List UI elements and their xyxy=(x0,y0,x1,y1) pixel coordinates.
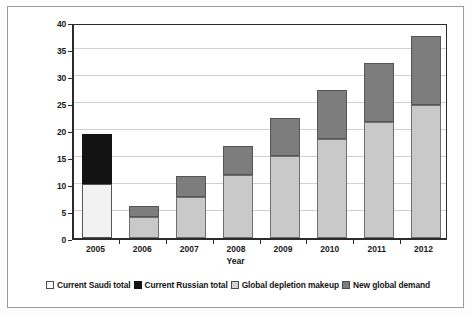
bar-segment[interactable] xyxy=(176,197,206,238)
y-tick-label: 35 xyxy=(40,46,66,56)
bar-segment[interactable] xyxy=(270,118,300,156)
dark-gray-square-swatch xyxy=(342,281,350,289)
y-tick-label: 0 xyxy=(40,235,66,245)
legend-item[interactable]: Current Saudi total xyxy=(46,280,130,290)
bar-segment[interactable] xyxy=(411,36,441,106)
legend-label: Current Saudi total xyxy=(57,280,130,290)
bar-segment[interactable] xyxy=(317,139,347,238)
legend-item[interactable]: Global depletion makeup xyxy=(231,280,339,290)
bar-segment[interactable] xyxy=(270,156,300,238)
bar-segment[interactable] xyxy=(223,175,253,238)
legend-label: Global depletion makeup xyxy=(242,280,339,290)
y-tick-label: 40 xyxy=(40,19,66,29)
y-tick-label: 5 xyxy=(40,208,66,218)
bar-segment[interactable] xyxy=(411,105,441,238)
legend-item[interactable]: New global demand xyxy=(342,280,430,290)
chart-legend: Current Saudi totalCurrent Russian total… xyxy=(46,278,430,292)
y-tick-mark xyxy=(68,240,72,241)
legend-label: New global demand xyxy=(353,280,430,290)
gridline xyxy=(74,48,446,49)
plot-area xyxy=(72,24,447,240)
bar-segment[interactable] xyxy=(129,217,159,238)
bar-segment[interactable] xyxy=(223,146,253,176)
legend-item[interactable]: Current Russian total xyxy=(134,280,228,290)
x-tick-label: 2012 xyxy=(397,244,451,254)
y-tick-label: 15 xyxy=(40,154,66,164)
bar-segment[interactable] xyxy=(317,90,347,139)
y-tick-label: 10 xyxy=(40,181,66,191)
bar-segment[interactable] xyxy=(129,206,159,218)
bar-segment[interactable] xyxy=(82,134,112,184)
chart-figure: Millions of barrels per day (Mb/d) requi… xyxy=(0,0,471,315)
legend-label: Current Russian total xyxy=(145,280,228,290)
black-square-swatch xyxy=(134,281,142,289)
y-tick-label: 30 xyxy=(40,73,66,83)
light-gray-square-swatch xyxy=(231,281,239,289)
x-axis-title: Year xyxy=(0,256,471,266)
bar-segment[interactable] xyxy=(364,63,394,122)
bar-segment[interactable] xyxy=(82,184,112,238)
y-tick-label: 20 xyxy=(40,127,66,137)
white-square-swatch xyxy=(46,281,54,289)
y-tick-label: 25 xyxy=(40,100,66,110)
bar-segment[interactable] xyxy=(364,122,394,238)
bar-segment[interactable] xyxy=(176,176,206,197)
